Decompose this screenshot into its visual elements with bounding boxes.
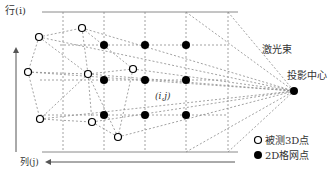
projection-center-point — [290, 87, 298, 95]
measured-point — [130, 66, 137, 73]
grid-point — [100, 41, 108, 49]
mesh-edge — [82, 28, 88, 74]
measured-3d-points — [25, 25, 137, 141]
measured-point — [79, 25, 86, 32]
legend: 被测3D点 2D格网点 — [254, 134, 309, 161]
laser-beams — [28, 12, 294, 152]
laser-beam-label: 激光束 — [262, 43, 292, 55]
lidar-grid-diagram: 行(i) 列(j) (i,j) 激光束 投影中心 被测3D点 2D格网点 — [0, 0, 334, 179]
grid-point — [182, 41, 190, 49]
mesh-edge — [88, 69, 133, 74]
col-axis-label: 列(j) — [20, 156, 39, 167]
mesh-edge — [39, 28, 82, 37]
grid-point — [100, 76, 108, 84]
measured-point — [36, 34, 43, 41]
mesh-edge — [28, 37, 39, 72]
measured-point — [25, 69, 32, 76]
projection-center-label: 投影中心 — [287, 69, 327, 81]
grid-point — [182, 111, 190, 119]
mesh-edge — [40, 74, 88, 119]
measured-point — [89, 119, 96, 126]
grid-point — [182, 76, 190, 84]
grid-point — [141, 111, 149, 119]
grid-horizontal-lines — [40, 45, 228, 115]
grid-point — [100, 111, 108, 119]
legend-label-3d: 被测3D点 — [265, 134, 309, 146]
legend-filled-circle-icon — [254, 151, 262, 159]
measured-point — [37, 116, 44, 123]
row-axis-label: 行(i) — [5, 4, 26, 16]
grid-point — [141, 41, 149, 49]
measured-point — [85, 71, 92, 78]
legend-open-circle-icon — [255, 137, 262, 144]
grid-point — [141, 76, 149, 84]
cell-label: (i,j) — [155, 91, 171, 101]
laser-beam-line — [88, 74, 294, 91]
mesh-edge — [28, 72, 40, 119]
laser-beam-line — [28, 72, 294, 91]
legend-label-2d: 2D格网点 — [265, 149, 309, 161]
measured-point — [115, 134, 122, 141]
mesh-edge — [40, 119, 92, 122]
mesh-edge — [82, 28, 133, 69]
